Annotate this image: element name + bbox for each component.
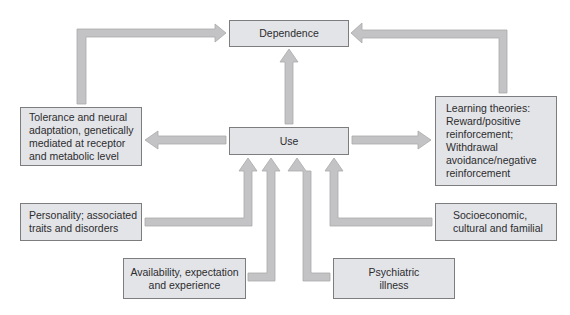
node-use-label: Use [280,135,299,148]
node-personality-label: Personality; associated traits and disor… [29,209,137,235]
arrow-use-to-dependence [280,49,298,124]
node-dependence: Dependence [229,20,349,47]
node-socioeconomic-label: Socioeconomic, cultural and familial [453,209,543,235]
arrow-personality-to-use [145,158,257,226]
node-psychiatric-illness: Psychiatric illness [333,258,455,299]
arrow-socioeconomic-to-use [325,158,432,226]
arrow-availability-to-use [248,158,280,281]
node-use: Use [229,127,349,155]
node-availability: Availability, expectation and experience [123,258,246,299]
node-psychiatric-illness-label: Psychiatric illness [369,266,420,292]
arrow-learning-to-dependence [351,23,507,93]
node-personality: Personality; associated traits and disor… [20,203,142,241]
node-dependence-label: Dependence [259,27,319,40]
node-socioeconomic: Socioeconomic, cultural and familial [435,203,557,241]
dependence-diagram: Dependence Use Tolerance and neural adap… [0,0,570,315]
arrow-use-to-learning [352,131,431,149]
node-availability-label: Availability, expectation and experience [130,266,238,292]
node-tolerance-label: Tolerance and neural adaptation, genetic… [29,111,134,163]
arrow-tolerance-to-dependence [77,24,226,104]
arrow-use-to-tolerance [145,131,226,149]
arrow-psychiatric-to-use [288,158,330,281]
node-learning-theories-label: Learning theories: Reward/positive reinf… [446,102,537,180]
node-tolerance: Tolerance and neural adaptation, genetic… [20,107,142,166]
node-learning-theories: Learning theories: Reward/positive reinf… [435,96,557,186]
